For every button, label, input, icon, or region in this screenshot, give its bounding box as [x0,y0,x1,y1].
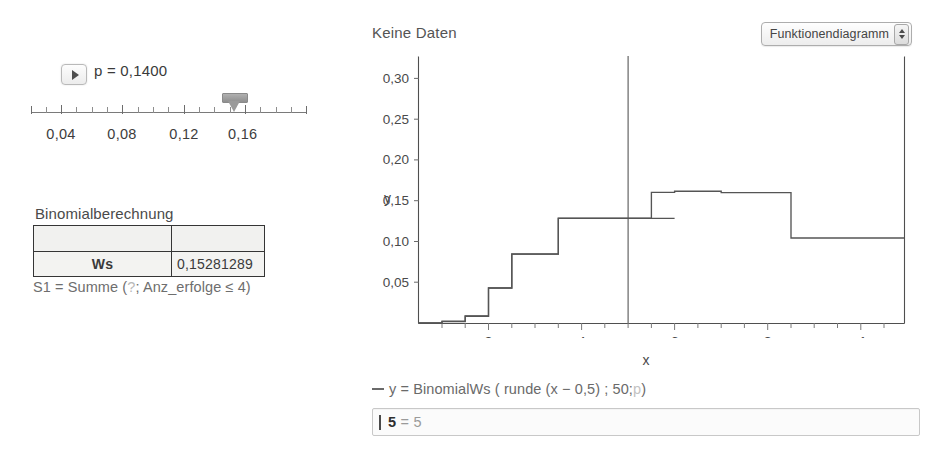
slider-thumb-pointer-icon [228,101,240,112]
chart-panel: Keine Daten Funktionendiagramm [360,0,930,456]
plot-legend: y = BinomialWs ( runde (x − 0,5) ; 50;p) [372,378,920,400]
text-caret-icon [379,415,381,430]
slider-axis-line [31,112,307,113]
slider-tick-minor [76,107,77,113]
chevron-down-icon [899,35,905,39]
slider-track-wrap[interactable]: 0,04 0,08 0,12 0,16 [28,104,310,150]
table-cell-value[interactable]: 0,15281289 [172,252,265,277]
x-tick-label: 6 [670,333,678,338]
chart-header-title: Keine Daten [372,24,457,41]
input-value[interactable]: 5 = 5 [388,414,422,430]
slider-tick-minor [107,107,108,113]
diagram-type-dropdown[interactable]: Funktionendiagramm [761,22,912,46]
chart-header: Keine Daten Funktionendiagramm [372,22,920,46]
slider-tick-minor [168,107,169,113]
input-equals: = 5 [401,414,422,430]
table-cell-value[interactable] [172,226,265,252]
formula-head: S1 = Summe ( [33,279,127,295]
step-curve-group [419,191,905,323]
slider-thumb[interactable] [222,93,246,113]
x-axis-tick-labels: 2 4 6 8 1 [484,333,867,338]
y-tick-label: 0,05 [383,275,409,290]
table-cell-label[interactable] [34,226,172,252]
step-curve [419,191,905,323]
slider-tick-minor [291,107,292,113]
slider-tick-major [61,105,62,114]
play-button[interactable] [61,64,87,85]
stepper-up-down-icon[interactable] [894,24,909,45]
slider-value-label: p = 0,1400 [94,62,167,79]
left-panel: p = 0,1400 [0,0,345,456]
table-row [34,226,265,252]
x-tick-label: 1 [859,333,867,338]
slider-tick-minor [214,107,215,113]
legend-tail: ) [641,381,646,397]
x-axis-title: x [372,352,920,368]
table-cell-label[interactable]: Ws [34,252,172,277]
binomial-calculation-block: Binomialberechnung Ws 0,15281289 S1 = Su… [33,205,298,295]
chevron-up-icon [899,29,905,33]
slider-axis-end-cap [306,106,307,114]
y-tick-label: 0,20 [383,152,409,167]
slider-tick-minor [199,107,200,113]
slider-tick-label: 0,04 [46,126,75,142]
input-number: 5 [388,414,396,430]
table-row: Ws 0,15281289 [34,252,265,277]
sum-formula-line: S1 = Summe (?; Anz_erfolge ≤ 4) [33,279,298,295]
y-tick-label: 0,30 [383,71,409,86]
x-tick-label: 8 [764,333,772,338]
x-tick-label: 2 [484,333,492,338]
slider-tick-major [122,105,123,114]
slider-tick-minor [153,107,154,113]
y-tick-label: 0,25 [383,112,409,127]
binomial-result-table[interactable]: Ws 0,15281289 [33,225,265,277]
diagram-type-label: Funktionendiagramm [770,27,889,41]
slider-tick-minor [92,107,93,113]
y-axis-title: y [384,190,391,206]
binomial-step-curve [419,218,629,322]
slider-tick-minor [138,107,139,113]
slider-tick-label: 0,12 [169,126,198,142]
slider-axis-start-cap [31,106,32,114]
geogebra-like-app-window: p = 0,1400 [0,0,930,456]
y-axis-tick-labels: 0,05 0,10 0,15 0,20 0,25 0,30 [383,71,409,290]
legend-parameter-placeholder: p [633,381,641,397]
slider-tick-labels: 0,04 0,08 0,12 0,16 [28,126,310,146]
plot-svg: 0,05 0,10 0,15 0,20 0,25 0,30 y [372,48,920,338]
legend-line-icon [372,388,384,390]
slider-tick-label: 0,08 [107,126,136,142]
binomial-distribution-step-path [419,218,675,322]
expression-input-bar[interactable]: 5 = 5 [372,408,920,436]
slider-tick-minor [260,107,261,113]
function-plot[interactable]: 0,05 0,10 0,15 0,20 0,25 0,30 y [372,48,920,338]
slider-tick-minor [46,107,47,113]
slider-tick-label: 0,16 [228,126,262,142]
slider-tick-minor [276,107,277,113]
table-title: Binomialberechnung [33,205,298,222]
play-triangle-icon [72,70,79,80]
formula-tail: ; Anz_erfolge ≤ 4) [135,279,250,295]
y-tick-label: 0,10 [383,234,409,249]
legend-head: y = BinomialWs ( runde (x − 0,5) ; 50; [389,381,633,397]
plot-frame [419,56,905,324]
x-tick-label: 4 [577,333,585,338]
slider-tick-major [184,105,185,114]
